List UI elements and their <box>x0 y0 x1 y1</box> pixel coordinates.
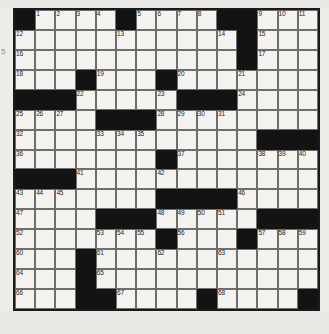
grid-letter-cell[interactable] <box>278 90 298 110</box>
grid-letter-cell[interactable] <box>278 50 298 70</box>
grid-letter-cell[interactable] <box>35 30 55 50</box>
grid-letter-cell[interactable] <box>298 30 318 50</box>
grid-letter-cell[interactable]: 27 <box>55 110 75 130</box>
grid-letter-cell[interactable] <box>156 269 176 289</box>
grid-letter-cell[interactable] <box>136 169 156 189</box>
grid-letter-cell[interactable] <box>55 249 75 269</box>
grid-letter-cell[interactable]: 63 <box>217 249 237 269</box>
crossword-grid[interactable]: 1234567891011121314151617181920212223242… <box>15 10 318 309</box>
grid-letter-cell[interactable]: 2 <box>55 10 75 30</box>
grid-letter-cell[interactable] <box>136 50 156 70</box>
grid-letter-cell[interactable]: 53 <box>96 229 116 249</box>
grid-letter-cell[interactable]: 59 <box>298 229 318 249</box>
grid-letter-cell[interactable]: 47 <box>15 209 35 229</box>
grid-letter-cell[interactable]: 25 <box>15 110 35 130</box>
grid-letter-cell[interactable]: 34 <box>116 130 136 150</box>
grid-letter-cell[interactable]: 67 <box>116 289 136 309</box>
grid-letter-cell[interactable] <box>217 130 237 150</box>
grid-letter-cell[interactable] <box>278 70 298 90</box>
grid-letter-cell[interactable]: 65 <box>96 269 116 289</box>
grid-letter-cell[interactable]: 9 <box>257 10 277 30</box>
grid-letter-cell[interactable]: 1 <box>35 10 55 30</box>
grid-letter-cell[interactable] <box>136 269 156 289</box>
grid-letter-cell[interactable] <box>96 169 116 189</box>
grid-letter-cell[interactable]: 42 <box>156 169 176 189</box>
grid-letter-cell[interactable]: 23 <box>156 90 176 110</box>
grid-letter-cell[interactable] <box>76 30 96 50</box>
grid-letter-cell[interactable] <box>278 169 298 189</box>
grid-letter-cell[interactable] <box>35 249 55 269</box>
grid-letter-cell[interactable]: 56 <box>177 229 197 249</box>
grid-letter-cell[interactable] <box>298 169 318 189</box>
grid-letter-cell[interactable]: 19 <box>96 70 116 90</box>
grid-letter-cell[interactable] <box>298 50 318 70</box>
grid-letter-cell[interactable] <box>237 289 257 309</box>
grid-letter-cell[interactable] <box>136 189 156 209</box>
grid-letter-cell[interactable]: 15 <box>257 30 277 50</box>
grid-letter-cell[interactable] <box>237 209 257 229</box>
grid-letter-cell[interactable] <box>156 50 176 70</box>
grid-letter-cell[interactable] <box>278 269 298 289</box>
grid-letter-cell[interactable]: 22 <box>76 90 96 110</box>
grid-letter-cell[interactable] <box>278 289 298 309</box>
grid-letter-cell[interactable] <box>177 249 197 269</box>
grid-letter-cell[interactable]: 32 <box>15 130 35 150</box>
grid-letter-cell[interactable] <box>177 30 197 50</box>
grid-letter-cell[interactable] <box>217 50 237 70</box>
grid-letter-cell[interactable]: 12 <box>15 30 35 50</box>
grid-letter-cell[interactable] <box>177 130 197 150</box>
grid-letter-cell[interactable]: 20 <box>177 70 197 90</box>
grid-letter-cell[interactable]: 36 <box>15 150 35 170</box>
grid-letter-cell[interactable] <box>116 269 136 289</box>
grid-letter-cell[interactable] <box>257 70 277 90</box>
grid-letter-cell[interactable] <box>197 150 217 170</box>
grid-letter-cell[interactable] <box>156 30 176 50</box>
grid-letter-cell[interactable] <box>177 50 197 70</box>
grid-letter-cell[interactable] <box>116 189 136 209</box>
grid-letter-cell[interactable] <box>116 169 136 189</box>
grid-letter-cell[interactable]: 4 <box>96 10 116 30</box>
grid-letter-cell[interactable] <box>76 50 96 70</box>
grid-letter-cell[interactable] <box>55 209 75 229</box>
grid-letter-cell[interactable] <box>96 90 116 110</box>
grid-letter-cell[interactable]: 13 <box>116 30 136 50</box>
grid-letter-cell[interactable]: 7 <box>177 10 197 30</box>
grid-letter-cell[interactable] <box>298 90 318 110</box>
grid-letter-cell[interactable]: 17 <box>257 50 277 70</box>
grid-letter-cell[interactable] <box>298 249 318 269</box>
grid-letter-cell[interactable] <box>257 169 277 189</box>
grid-letter-cell[interactable] <box>76 150 96 170</box>
grid-letter-cell[interactable]: 40 <box>298 150 318 170</box>
grid-letter-cell[interactable] <box>197 169 217 189</box>
grid-letter-cell[interactable]: 28 <box>156 110 176 130</box>
grid-letter-cell[interactable] <box>116 90 136 110</box>
grid-letter-cell[interactable] <box>257 90 277 110</box>
grid-letter-cell[interactable]: 11 <box>298 10 318 30</box>
grid-letter-cell[interactable] <box>177 169 197 189</box>
grid-letter-cell[interactable] <box>298 189 318 209</box>
grid-letter-cell[interactable] <box>35 209 55 229</box>
grid-letter-cell[interactable]: 16 <box>15 50 35 70</box>
grid-letter-cell[interactable] <box>237 130 257 150</box>
grid-letter-cell[interactable]: 68 <box>217 289 237 309</box>
grid-letter-cell[interactable]: 45 <box>55 189 75 209</box>
grid-letter-cell[interactable] <box>278 30 298 50</box>
grid-letter-cell[interactable]: 35 <box>136 130 156 150</box>
grid-letter-cell[interactable] <box>197 269 217 289</box>
grid-letter-cell[interactable]: 38 <box>257 150 277 170</box>
grid-letter-cell[interactable]: 43 <box>15 189 35 209</box>
grid-letter-cell[interactable]: 18 <box>15 70 35 90</box>
grid-letter-cell[interactable] <box>237 169 257 189</box>
grid-letter-cell[interactable] <box>136 289 156 309</box>
grid-letter-cell[interactable]: 6 <box>156 10 176 30</box>
grid-letter-cell[interactable]: 52 <box>15 229 35 249</box>
grid-letter-cell[interactable] <box>217 269 237 289</box>
grid-letter-cell[interactable] <box>136 150 156 170</box>
grid-letter-cell[interactable]: 21 <box>237 70 257 90</box>
grid-letter-cell[interactable]: 26 <box>35 110 55 130</box>
grid-letter-cell[interactable] <box>136 30 156 50</box>
grid-letter-cell[interactable]: 8 <box>197 10 217 30</box>
grid-letter-cell[interactable] <box>197 130 217 150</box>
grid-letter-cell[interactable] <box>35 229 55 249</box>
grid-letter-cell[interactable]: 58 <box>278 229 298 249</box>
